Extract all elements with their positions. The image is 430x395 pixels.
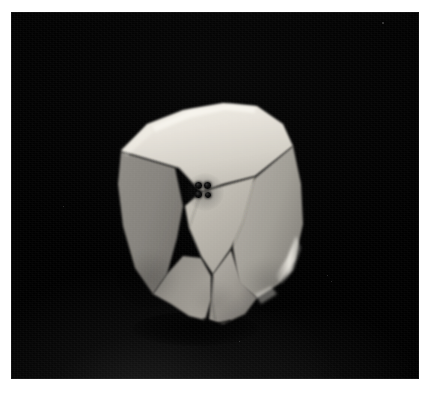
- shade-center-lower: [191, 282, 239, 322]
- photograph-plate: [11, 12, 419, 379]
- print-speck: [382, 22, 384, 24]
- print-speck: [63, 206, 64, 207]
- image-subject-text: flaked stone artifact (lithic core): [0, 0, 1, 1]
- print-speck: [331, 281, 332, 282]
- shade-left-lower: [119, 250, 179, 306]
- ink-dot-top-right: [204, 182, 211, 189]
- ink-dot-bottom-right: [205, 192, 212, 199]
- ink-dot-bottom-left: [195, 191, 202, 198]
- ink-dot-top-left: [195, 182, 202, 189]
- stone-artifact: [105, 88, 305, 323]
- print-speck: [239, 341, 240, 342]
- four-dot-ink-mark: [195, 182, 215, 202]
- print-speck: [327, 275, 328, 276]
- artifact-facets: [105, 88, 305, 323]
- photograph-frame: flaked stone artifact (lithic core): [0, 0, 430, 395]
